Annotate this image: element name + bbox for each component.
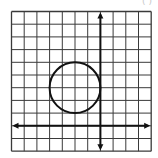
y-axis-up-arrow-icon: [97, 13, 103, 19]
coordinate-grid-diagram: [0, 0, 158, 158]
x-axis-right-arrow-icon: [144, 123, 150, 129]
y-axis-down-arrow-icon: [97, 144, 103, 150]
x-axis-left-arrow-icon: [13, 123, 19, 129]
grid-lines: [12, 12, 152, 152]
